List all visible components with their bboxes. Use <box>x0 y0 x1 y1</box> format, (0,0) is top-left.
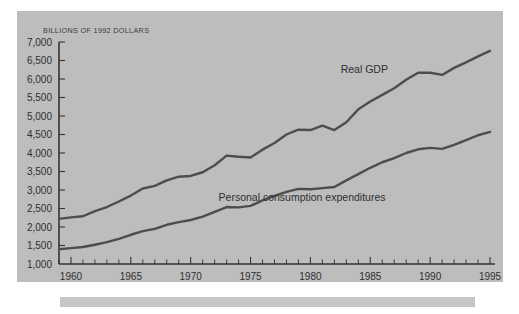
y-tick-label: 5,000 <box>27 111 52 122</box>
y-tick-label: 6,500 <box>27 55 52 66</box>
y-axis-title: BILLIONS OF 1992 DOLLARS <box>43 26 149 35</box>
series-label-pce: Personal consumption expenditures <box>219 191 386 203</box>
y-tick-label: 1,500 <box>27 240 52 251</box>
x-tick-label: 1965 <box>120 271 143 282</box>
x-axis-tick-marks <box>59 257 490 264</box>
y-tick-label: 4,000 <box>27 148 52 159</box>
data-series-lines <box>59 51 490 249</box>
y-tick-label: 7,000 <box>27 37 52 48</box>
y-tick-label: 1,000 <box>27 259 52 270</box>
y-tick-label: 2,500 <box>27 203 52 214</box>
y-tick-label: 3,500 <box>27 166 52 177</box>
y-tick-label: 2,000 <box>27 222 52 233</box>
x-tick-label: 1985 <box>359 271 382 282</box>
chart-figure: BILLIONS OF 1992 DOLLARS 1,0001,5002,000… <box>0 0 519 314</box>
x-tick-label: 1995 <box>479 271 502 282</box>
y-tick-label: 3,000 <box>27 185 52 196</box>
chart-panel: BILLIONS OF 1992 DOLLARS 1,0001,5002,000… <box>17 11 503 282</box>
x-tick-label: 1990 <box>419 271 442 282</box>
x-tick-label: 1975 <box>239 271 262 282</box>
series-label-real-gdp: Real GDP <box>341 63 388 75</box>
y-axis-tick-marks <box>59 42 65 246</box>
y-axis-title-group: BILLIONS OF 1992 DOLLARS <box>43 26 149 35</box>
y-axis-tick-labels: 1,0001,5002,0002,5003,0003,5004,0004,500… <box>27 37 52 270</box>
series-annotations: Real GDPPersonal consumption expenditure… <box>219 63 388 203</box>
y-tick-label: 4,500 <box>27 129 52 140</box>
x-axis-tick-labels: 19601965197019751980198519901995 <box>60 271 502 282</box>
x-tick-label: 1970 <box>180 271 203 282</box>
y-tick-label: 6,000 <box>27 74 52 85</box>
x-tick-label: 1980 <box>299 271 322 282</box>
line-chart: BILLIONS OF 1992 DOLLARS 1,0001,5002,000… <box>17 11 503 282</box>
x-tick-label: 1960 <box>60 271 83 282</box>
y-tick-label: 5,500 <box>27 92 52 103</box>
caption-bar <box>60 297 475 307</box>
